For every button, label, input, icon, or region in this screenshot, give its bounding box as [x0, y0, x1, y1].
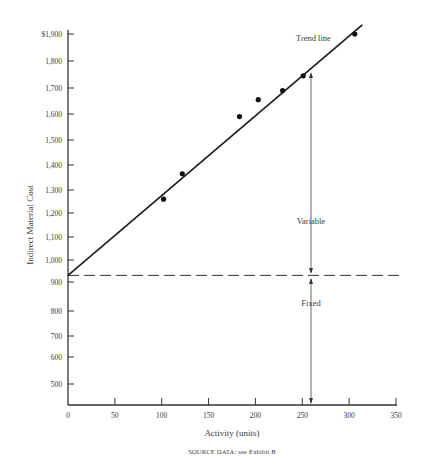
- x-tick-label: 300: [344, 411, 356, 420]
- y-tick-label: 900: [51, 278, 63, 287]
- source-caption: SOURCE DATA: see Exhibit B: [188, 448, 276, 455]
- y-tick-label: 1,000: [45, 256, 62, 265]
- fixed-label: Fixed: [301, 298, 321, 308]
- data-points: [161, 31, 357, 201]
- data-point: [352, 31, 357, 36]
- cost-split-arrows: [309, 72, 313, 404]
- y-tick-label: 1,700: [45, 84, 62, 93]
- y-tick-label: 1,300: [45, 186, 62, 195]
- y-tick-label: 700: [51, 332, 63, 341]
- x-tick-label: 250: [297, 411, 309, 420]
- x-axis-title: Activity (units): [204, 428, 259, 438]
- chart-canvas: $1,9001,8001,7001,6001,5001,4001,3001,20…: [0, 0, 425, 471]
- x-tick-label: 50: [111, 411, 119, 420]
- y-tick-label: 1,400: [45, 161, 62, 170]
- data-point: [256, 97, 261, 102]
- x-tick-label: 0: [66, 411, 70, 420]
- y-tick-label: $1,900: [41, 30, 62, 39]
- y-tick-label: 1,800: [45, 57, 62, 66]
- y-tick-label: 1,100: [45, 233, 62, 242]
- data-point: [301, 73, 306, 78]
- trend-line-label: Trend line: [296, 33, 331, 43]
- data-point: [237, 114, 242, 119]
- x-axis-ticks: 050100150200250300350: [66, 398, 402, 420]
- y-tick-label: 1,200: [45, 209, 62, 218]
- data-point: [280, 88, 285, 93]
- y-tick-label: 800: [51, 307, 63, 316]
- data-point: [180, 171, 185, 176]
- variable-label: Variable: [297, 216, 326, 226]
- data-point: [161, 197, 166, 202]
- y-tick-label: 600: [51, 353, 63, 362]
- x-tick-label: 100: [156, 411, 168, 420]
- x-tick-label: 150: [203, 411, 215, 420]
- x-tick-label: 200: [250, 411, 262, 420]
- x-tick-label: 350: [390, 411, 402, 420]
- y-axis-ticks: $1,9001,8001,7001,6001,5001,4001,3001,20…: [41, 30, 74, 389]
- y-tick-label: 1,600: [45, 110, 62, 119]
- y-tick-label: 1,500: [45, 136, 62, 145]
- trend-line: [68, 25, 362, 276]
- y-axis-title: Indirect Material Cost: [25, 185, 35, 265]
- y-tick-label: 500: [51, 380, 63, 389]
